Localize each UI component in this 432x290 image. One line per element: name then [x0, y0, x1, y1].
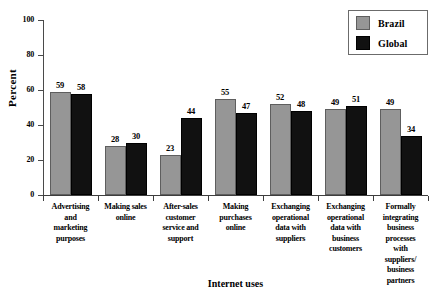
bar-brazil — [215, 99, 236, 195]
chart-legend: Brazil Global — [348, 10, 428, 55]
y-axis-tick-label: 60 — [2, 85, 34, 94]
legend-label-global: Global — [378, 38, 408, 49]
bar-brazil — [380, 109, 401, 195]
x-axis-tick — [318, 196, 319, 201]
bar-brazil — [270, 104, 291, 195]
bar-group: 5248 — [263, 20, 318, 195]
bar-global — [181, 118, 202, 195]
x-axis-tick — [43, 196, 44, 201]
x-axis-category-label: Making salesonline — [94, 202, 157, 223]
x-axis-category-label: Makingpurchasesonline — [204, 202, 267, 234]
bar-brazil — [105, 146, 126, 195]
bar-group: 2344 — [153, 20, 208, 195]
x-axis-tick — [428, 196, 429, 201]
legend-item-global: Global — [356, 36, 408, 50]
x-axis-category-label: Formallyintegratingbusinessprocesseswith… — [369, 202, 432, 286]
y-axis-tick-label: 0 — [2, 190, 34, 199]
x-axis-line — [43, 195, 428, 196]
bar-group: 2830 — [98, 20, 153, 195]
bar-value-label: 47 — [232, 101, 261, 111]
bar-value-label: 51 — [342, 94, 371, 104]
x-axis-tick — [153, 196, 154, 201]
bar-value-label: 55 — [211, 87, 240, 97]
bar-global — [401, 136, 422, 196]
x-axis-category-label: Exchangingoperationaldata withsuppliers — [259, 202, 322, 244]
legend-label-brazil: Brazil — [378, 18, 405, 29]
y-axis-tick-label: 80 — [2, 50, 34, 59]
bar-value-label: 49 — [376, 97, 405, 107]
x-axis-tick — [373, 196, 374, 201]
y-axis-tick-label: 20 — [2, 155, 34, 164]
x-axis-category-label: Advertisingandmarketingpurposes — [39, 202, 102, 244]
x-axis-category-label: Exchangingoperationaldata withbusinesscu… — [314, 202, 377, 255]
y-axis-tick-label: 40 — [2, 120, 34, 129]
global-swatch-icon — [356, 36, 370, 50]
bar-global — [71, 94, 92, 196]
bar-global — [291, 111, 312, 195]
x-axis-tick — [263, 196, 264, 201]
x-axis-tick — [98, 196, 99, 201]
legend-item-brazil: Brazil — [356, 16, 405, 30]
x-axis-tick — [208, 196, 209, 201]
bar-brazil — [160, 155, 181, 195]
x-axis-category-label: After-salescustomerservice andsupport — [149, 202, 212, 244]
bar-value-label: 34 — [397, 124, 426, 134]
bar-value-label: 30 — [122, 131, 151, 141]
y-axis-tick-label: 100 — [2, 15, 34, 24]
bar-global — [126, 143, 147, 196]
bar-group: 5547 — [208, 20, 263, 195]
brazil-swatch-icon — [356, 16, 370, 30]
bar-group: 5958 — [43, 20, 98, 195]
bar-value-label: 48 — [287, 99, 316, 109]
bar-global — [346, 106, 367, 195]
bar-value-label: 44 — [177, 106, 206, 116]
bar-brazil — [325, 109, 346, 195]
bar-global — [236, 113, 257, 195]
x-axis-title: Internet uses — [43, 278, 428, 289]
bar-brazil — [50, 92, 71, 195]
bar-value-label: 58 — [67, 82, 96, 92]
grouped-bar-chart: Percent 020406080100 5958283023445547524… — [0, 0, 432, 290]
